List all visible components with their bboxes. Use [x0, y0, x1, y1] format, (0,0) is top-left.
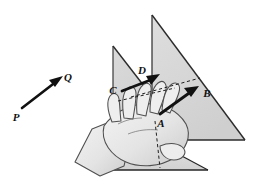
label-P: P [13, 111, 20, 123]
label-B: B [202, 87, 210, 99]
label-A: A [156, 117, 164, 129]
label-C: C [109, 84, 117, 96]
figure-canvas: P Q C D A B [0, 0, 261, 186]
label-Q: Q [64, 71, 72, 83]
vector-transport-figure: P Q C D A B [0, 0, 261, 186]
label-D: D [137, 64, 146, 76]
